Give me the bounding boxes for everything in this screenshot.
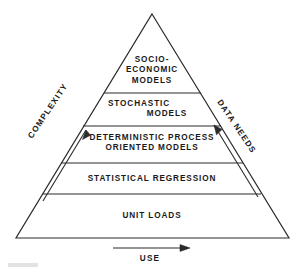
tier-line: ECONOMIC <box>126 65 178 75</box>
tier-stochastic-models: STOCHASTIC MODELS <box>121 99 183 120</box>
tier-line: MODELS <box>136 109 198 119</box>
tier-line: STOCHASTIC <box>108 99 170 109</box>
axis-label-use: USE <box>0 254 300 263</box>
tier-socio-economic-models: SOCIO- ECONOMIC MODELS <box>126 55 178 86</box>
complexity-arrow-shaft <box>43 130 86 201</box>
pyramid-figure: SOCIO- ECONOMIC MODELS STOCHASTIC MODELS… <box>0 0 300 272</box>
caption-artifact <box>8 263 38 267</box>
tier-statistical-regression: STATISTICAL REGRESSION <box>88 174 217 184</box>
tier-deterministic-process-oriented-models: DETERMINISTIC PROCESS ORIENTED MODELS <box>90 133 215 154</box>
right-arrow-icon <box>180 245 190 252</box>
tier-line: DETERMINISTIC PROCESS <box>90 133 215 143</box>
tier-line: STATISTICAL REGRESSION <box>88 174 217 184</box>
tier-line: SOCIO- <box>126 55 178 65</box>
tier-unit-loads: UNIT LOADS <box>122 211 181 221</box>
data-needs-arrow-shaft <box>214 125 258 197</box>
tier-line: MODELS <box>126 76 178 86</box>
tier-line: ORIENTED MODELS <box>90 143 215 153</box>
tier-line: UNIT LOADS <box>122 211 181 221</box>
